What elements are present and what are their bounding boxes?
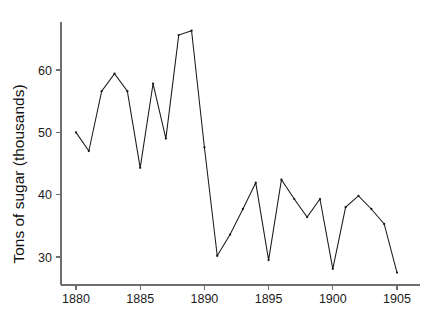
data-point-marker	[152, 83, 154, 85]
x-tick-label: 1895	[255, 292, 283, 306]
data-point-marker	[267, 259, 269, 261]
data-point-marker	[113, 73, 115, 75]
data-point-marker	[293, 198, 295, 200]
line-chart-figure: 188018851890189519001905 30405060 Tons o…	[0, 0, 441, 325]
tick-marks-group	[56, 70, 397, 290]
data-point-marker	[178, 34, 180, 36]
data-point-marker	[165, 137, 167, 139]
data-point-marker	[370, 208, 372, 210]
data-point-marker	[255, 182, 257, 184]
data-point-marker	[88, 150, 90, 152]
x-tick-label: 1890	[190, 292, 218, 306]
data-point-marker	[139, 167, 141, 169]
y-tick-label: 30	[38, 251, 52, 265]
y-axis-title: Tons of sugar (thousands)	[10, 84, 27, 263]
data-point-marker	[126, 90, 128, 92]
x-tick-label: 1885	[126, 292, 154, 306]
data-point-marker	[101, 90, 103, 92]
data-point-marker	[332, 268, 334, 270]
chart-canvas: 188018851890189519001905 30405060 Tons o…	[0, 0, 441, 325]
axes-group	[61, 22, 420, 285]
data-point-marker	[306, 216, 308, 218]
x-tick-label: 1880	[62, 292, 90, 306]
data-point-marker	[216, 255, 218, 257]
data-point-marker	[190, 30, 192, 32]
data-point-marker	[242, 208, 244, 210]
y-tick-labels-group: 30405060	[38, 64, 52, 265]
x-tick-label: 1900	[319, 292, 347, 306]
y-tick-label: 40	[38, 188, 52, 202]
data-point-marker	[344, 206, 346, 208]
y-tick-label: 60	[38, 64, 52, 78]
data-point-marker	[396, 271, 398, 273]
x-tick-labels-group: 188018851890189519001905	[62, 292, 411, 306]
x-tick-label: 1905	[383, 292, 411, 306]
data-point-marker	[383, 223, 385, 225]
data-point-marker	[203, 146, 205, 148]
data-point-marker	[75, 131, 77, 133]
data-point-marker	[280, 179, 282, 181]
y-tick-label: 50	[38, 126, 52, 140]
data-line	[76, 31, 397, 273]
data-series-group	[75, 30, 398, 274]
data-point-marker	[357, 195, 359, 197]
data-point-marker	[319, 198, 321, 200]
data-point-marker	[229, 233, 231, 235]
